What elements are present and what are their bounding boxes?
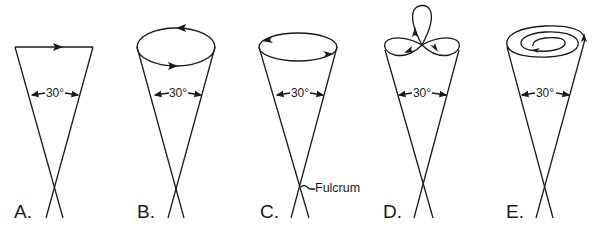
angle-arrow-left xyxy=(277,93,290,95)
angle-arrow-left xyxy=(522,93,535,95)
angle-arrow-right xyxy=(310,93,323,95)
cone-left-line xyxy=(259,47,309,218)
panel-label: E. xyxy=(506,201,524,222)
arrow-down-right-icon xyxy=(430,43,438,52)
angle-arrow-right xyxy=(188,93,201,95)
arrow-left-icon xyxy=(262,36,273,43)
angle-label: 30° xyxy=(536,86,554,100)
angle-arrow-left xyxy=(399,93,412,95)
cone-left-line xyxy=(137,47,184,218)
fulcrum-leader-line xyxy=(301,186,315,190)
arrow-up-icon xyxy=(412,27,418,37)
cone-left-line xyxy=(507,47,553,218)
motion-path-spiral xyxy=(507,26,585,57)
cone-motion-figure: 30° A. 30° B. 30° Fulcrum C. xyxy=(0,0,600,227)
angle-arrow-right xyxy=(432,93,446,95)
cone-left-line xyxy=(385,50,433,218)
panel-label: B. xyxy=(137,201,155,222)
angle-arrow-right xyxy=(65,93,78,95)
motion-path-right-loop xyxy=(422,38,459,55)
cone-right-line xyxy=(414,50,459,218)
panel-label: A. xyxy=(14,201,32,222)
cone-right-line xyxy=(536,43,584,218)
panel-c: 30° Fulcrum C. xyxy=(259,33,360,222)
motion-path-top-loop xyxy=(412,6,431,46)
angle-label: 30° xyxy=(291,86,309,100)
angle-arrow-left xyxy=(32,93,45,95)
panel-b: 30° B. xyxy=(137,24,215,222)
arrow-down-left-icon xyxy=(404,46,414,53)
angle-arrow-left xyxy=(155,93,169,95)
angle-label: 30° xyxy=(46,86,64,100)
panel-d: 30° D. xyxy=(383,6,459,223)
cone-right-line xyxy=(46,47,93,218)
motion-path-left-loop xyxy=(385,38,422,55)
arrow-right-icon xyxy=(531,48,540,53)
panel-label: D. xyxy=(383,201,402,222)
angle-arrow-right xyxy=(556,93,569,95)
angle-label: 30° xyxy=(413,86,431,100)
panel-a: 30° A. xyxy=(14,43,93,222)
fulcrum-label: Fulcrum xyxy=(315,181,360,195)
panel-label: C. xyxy=(260,201,279,222)
cone-left-line xyxy=(15,47,63,218)
panel-e: 30° E. xyxy=(506,26,587,222)
cone-right-line xyxy=(168,47,215,218)
motion-path-circle xyxy=(137,28,215,66)
angle-label: 30° xyxy=(169,86,187,100)
